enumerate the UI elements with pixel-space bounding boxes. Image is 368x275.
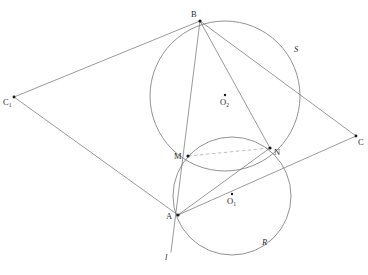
- center-label-o1: O1: [227, 197, 236, 206]
- arc-label-s: S: [294, 45, 298, 54]
- arc-label-r: R: [262, 238, 267, 247]
- center-label-o2: O2: [220, 98, 229, 107]
- geometry-svg: [0, 0, 368, 275]
- point-marker-a: [176, 213, 179, 216]
- center-label-o2-sub: 2: [226, 102, 229, 108]
- segment-c1-a: [14, 97, 178, 215]
- segment-m-n-dashed: [188, 148, 270, 156]
- point-marker-b: [198, 19, 201, 22]
- line-label-l: l: [165, 253, 167, 262]
- point-label-b: B: [191, 10, 197, 19]
- point-marker-o2: [224, 94, 226, 96]
- geometry-figure-canvas: B C1 C M N A O2 O1 S R l: [0, 0, 368, 275]
- segment-b-c1: [14, 21, 200, 97]
- point-marker-m: [186, 154, 189, 157]
- segment-b-c: [200, 21, 356, 136]
- point-label-c: C: [358, 138, 364, 147]
- segment-group: [14, 21, 356, 252]
- point-marker-c: [355, 135, 358, 138]
- point-label-c1-text: C: [3, 97, 9, 107]
- center-label-o1-sub: 1: [233, 201, 236, 207]
- point-marker-group: [13, 19, 358, 216]
- segment-a-c: [178, 136, 356, 215]
- point-label-n: N: [274, 148, 280, 157]
- segment-a-n: [178, 148, 270, 215]
- point-label-c1: C1: [3, 98, 11, 107]
- segment-b-n: [200, 21, 270, 148]
- point-marker-o1: [231, 193, 233, 195]
- segment-line-l: [171, 21, 200, 252]
- point-marker-n: [268, 146, 271, 149]
- point-label-a: A: [166, 212, 172, 221]
- point-marker-c1: [13, 96, 16, 99]
- point-label-m: M: [174, 152, 182, 161]
